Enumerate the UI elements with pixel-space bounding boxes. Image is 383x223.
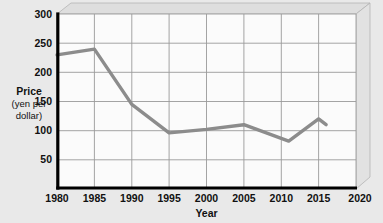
y-tick-label: 100 — [34, 124, 52, 136]
y-axis-title-sub-2: dollar) — [16, 110, 42, 121]
y-tick-label: 50 — [40, 153, 52, 165]
x-tick-label: 1985 — [83, 192, 107, 204]
x-tick-label: 1990 — [120, 192, 144, 204]
y-axis-title-sub-1: (yen per — [12, 98, 47, 109]
chart-canvas: 300 250 200 150 100 50 1980 1985 1990 19… — [0, 0, 383, 223]
line-chart: 300 250 200 150 100 50 1980 1985 1990 19… — [0, 0, 383, 223]
y-axis-title-main: Price — [16, 85, 42, 97]
x-tick-label: 2005 — [232, 192, 256, 204]
x-axis-title: Year — [195, 207, 217, 219]
x-tick-label: 2010 — [270, 192, 294, 204]
x-tick-label: 2000 — [195, 192, 219, 204]
y-axis-title: Price (yen per dollar) — [12, 85, 47, 121]
x-tick-label: 2015 — [307, 192, 331, 204]
y-tick-label: 300 — [34, 8, 52, 20]
x-tick-label: 1980 — [45, 192, 69, 204]
chart-bevel-top — [57, 3, 370, 14]
y-tick-label: 250 — [34, 37, 52, 49]
y-tick-label: 200 — [34, 66, 52, 78]
chart-bevel-right — [356, 3, 370, 189]
x-tick-label: 2020 — [348, 192, 372, 204]
x-tick-labels: 1980 1985 1990 1995 2000 2005 2010 2015 … — [45, 192, 372, 204]
x-tick-label: 1995 — [157, 192, 181, 204]
